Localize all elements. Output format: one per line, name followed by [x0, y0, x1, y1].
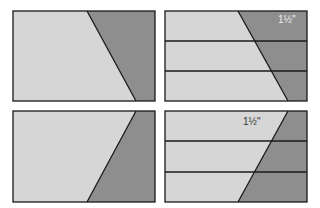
- panel-bottom-left: [13, 111, 155, 202]
- diagram: [0, 0, 320, 208]
- measurement-label-top: 1½": [278, 14, 295, 25]
- measurement-label-bottom: 1½": [243, 116, 260, 127]
- panel-bottom-right: [165, 111, 307, 202]
- panel-top-left: [13, 11, 155, 101]
